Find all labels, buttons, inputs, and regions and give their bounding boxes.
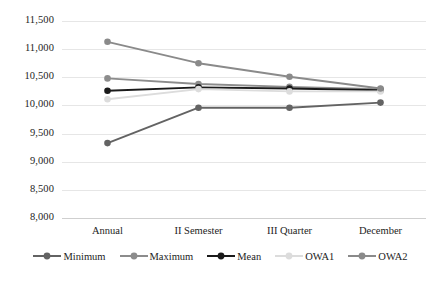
data-point-marker [195, 60, 202, 67]
chart-legend: MinimumMaximumMeanOWA1OWA2 [0, 250, 440, 262]
legend-item-owa2[interactable]: OWA2 [347, 250, 407, 262]
series-layer [0, 0, 440, 232]
data-point-marker [286, 104, 293, 111]
legend-label: Mean [237, 251, 261, 262]
data-point-marker [195, 104, 202, 111]
legend-item-owa1[interactable]: OWA1 [274, 250, 334, 262]
legend-marker-icon [274, 250, 304, 262]
series-line [108, 103, 381, 144]
legend-item-minimum[interactable]: Minimum [32, 250, 105, 262]
data-point-marker [377, 99, 384, 106]
legend-marker-icon [347, 250, 377, 262]
data-point-marker [195, 86, 202, 93]
legend-label: Maximum [150, 251, 194, 262]
data-point-marker [104, 39, 111, 46]
data-point-marker [377, 85, 384, 92]
series-minimum [104, 99, 384, 146]
data-point-marker [104, 96, 111, 103]
series-line [108, 89, 381, 99]
series-owa2 [104, 39, 384, 92]
data-point-marker [286, 88, 293, 95]
data-point-marker [104, 88, 111, 95]
figure-caption [0, 281, 440, 289]
legend-marker-icon [32, 250, 62, 262]
legend-label: Minimum [63, 251, 105, 262]
legend-label: OWA2 [378, 251, 407, 262]
legend-marker-icon [206, 250, 236, 262]
data-point-marker [104, 140, 111, 147]
line-chart: 8,0008,5009,0009,50010,00010,50011,00011… [0, 0, 440, 289]
legend-label: OWA1 [305, 251, 334, 262]
legend-item-mean[interactable]: Mean [206, 250, 261, 262]
data-point-marker [286, 73, 293, 80]
legend-item-maximum[interactable]: Maximum [119, 250, 194, 262]
data-point-marker [104, 75, 111, 82]
plot-area: 8,0008,5009,0009,50010,00010,50011,00011… [0, 0, 440, 232]
legend-marker-icon [119, 250, 149, 262]
